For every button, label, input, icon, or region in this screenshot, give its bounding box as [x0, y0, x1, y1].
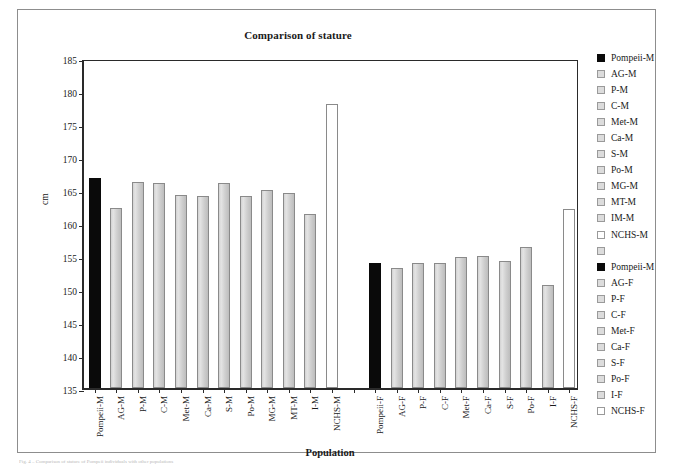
bar-slot: C-F — [429, 61, 451, 388]
bar-ca-f[interactable] — [477, 256, 489, 388]
bar-i-f[interactable] — [542, 285, 554, 388]
legend-item-label: AG-F — [611, 278, 633, 288]
legend-swatch-icon — [597, 198, 605, 206]
legend-item-label: Met-F — [611, 326, 635, 336]
bar-p-f[interactable] — [412, 263, 424, 388]
legend-swatch-icon — [597, 118, 605, 126]
x-axis-tick-label: C-M — [159, 396, 169, 413]
legend-swatch-icon — [597, 263, 605, 271]
bar-met-f[interactable] — [455, 257, 467, 388]
legend-item[interactable]: Pompeii-M — [597, 50, 674, 66]
bar-ag-f[interactable] — [391, 268, 403, 388]
legend-item[interactable] — [597, 243, 674, 259]
bar-pompeii-f[interactable] — [369, 263, 381, 388]
bar-slot: Ca-M — [192, 61, 214, 388]
chart-title: Comparison of stature — [18, 29, 578, 41]
legend-item[interactable]: MT-M — [597, 194, 674, 210]
bar-met-m[interactable] — [175, 195, 187, 388]
legend-item[interactable]: AG-F — [597, 275, 674, 291]
legend-item[interactable]: P-F — [597, 291, 674, 307]
legend-item[interactable]: AG-M — [597, 66, 674, 82]
x-axis-tick-label: P-F — [418, 396, 428, 409]
legend-item-label: Ca-M — [611, 133, 633, 143]
legend-swatch-icon — [597, 279, 605, 287]
legend-item[interactable]: Ca-M — [597, 130, 674, 146]
bar-p-m[interactable] — [132, 182, 144, 388]
legend-item[interactable]: S-F — [597, 355, 674, 371]
x-axis-tick-label: C-F — [440, 396, 450, 410]
x-axis-tick-mark — [246, 388, 247, 393]
bar-ag-m[interactable] — [110, 208, 122, 388]
bar-slot: I-F — [537, 61, 559, 388]
x-axis-tick-mark — [526, 388, 527, 393]
legend-item[interactable]: S-M — [597, 146, 674, 162]
bar-c-m[interactable] — [153, 183, 165, 388]
legend-item-label: Ca-F — [611, 342, 630, 352]
legend-item[interactable]: P-M — [597, 82, 674, 98]
bar-pompeii-m[interactable] — [89, 178, 101, 388]
x-axis-tick-label: S-M — [224, 396, 234, 412]
bar-mg-m[interactable] — [261, 190, 273, 388]
bar-ca-m[interactable] — [197, 196, 209, 388]
legend-item[interactable]: IM-M — [597, 210, 674, 226]
x-axis-tick-mark — [548, 388, 549, 393]
legend-item-label: Pompeii-M — [611, 262, 654, 272]
x-axis-tick-mark — [95, 388, 96, 393]
legend-item[interactable]: NCHS-M — [597, 227, 674, 243]
legend-swatch-icon — [597, 182, 605, 190]
legend-item[interactable]: Met-M — [597, 114, 674, 130]
legend-item[interactable]: Ca-F — [597, 339, 674, 355]
bar-po-f[interactable] — [520, 247, 532, 388]
x-axis-tick-mark — [310, 388, 311, 393]
legend-swatch-icon — [597, 391, 605, 399]
legend-item-label: AG-M — [611, 69, 636, 79]
bar-slot: NCHS-M — [321, 61, 343, 388]
legend-item[interactable]: Met-F — [597, 323, 674, 339]
bar-slot: P-F — [407, 61, 429, 388]
x-axis-tick-label: NCHS-F — [569, 396, 579, 428]
legend-item[interactable]: MG-M — [597, 178, 674, 194]
x-axis-tick-mark — [440, 388, 441, 393]
bar-i-m[interactable] — [304, 214, 316, 388]
legend-swatch-icon — [597, 231, 605, 239]
x-axis-tick-label: P-M — [138, 396, 148, 412]
x-axis-tick-mark — [203, 388, 204, 393]
x-axis-tick-label: Ca-M — [203, 396, 213, 417]
bar-c-f[interactable] — [434, 263, 446, 388]
legend-swatch-icon — [597, 311, 605, 319]
bar-slot: MG-M — [257, 61, 279, 388]
bar-s-f[interactable] — [499, 261, 511, 388]
legend-swatch-icon — [597, 327, 605, 335]
legend-swatch-icon — [597, 247, 605, 255]
bar-slot: Pompeii-F — [364, 61, 386, 388]
x-axis-tick-label: MG-M — [267, 396, 277, 422]
bar-nchs-m[interactable] — [326, 104, 338, 388]
bar-s-m[interactable] — [218, 183, 230, 388]
legend-item[interactable]: Po-M — [597, 162, 674, 178]
legend-item[interactable]: C-F — [597, 307, 674, 323]
legend-item[interactable]: Pompeii-M — [597, 259, 674, 275]
legend-item[interactable]: I-F — [597, 387, 674, 403]
bar-nchs-f[interactable] — [563, 209, 575, 388]
bar-slot: MT-M — [278, 61, 300, 388]
bar-po-m[interactable] — [240, 196, 252, 388]
legend-item-label: MG-M — [611, 181, 638, 191]
x-axis-tick-label: MT-M — [289, 396, 299, 420]
legend-item[interactable]: C-M — [597, 98, 674, 114]
legend-swatch-icon — [597, 70, 605, 78]
legend-item-label: MT-M — [611, 197, 636, 207]
x-axis-tick-mark — [483, 388, 484, 393]
bar-slot: Po-M — [235, 61, 257, 388]
legend-swatch-icon — [597, 54, 605, 62]
legend-swatch-icon — [597, 150, 605, 158]
x-axis-tick-label: Pompeii-M — [95, 396, 105, 437]
legend-item-label: Pompeii-M — [611, 53, 654, 63]
legend-item[interactable]: Po-F — [597, 371, 674, 387]
legend-item-label: C-M — [611, 101, 629, 111]
legend-item-label: P-M — [611, 85, 628, 95]
legend-item[interactable]: NCHS-F — [597, 403, 674, 419]
x-axis-tick-mark — [224, 388, 225, 393]
legend-swatch-icon — [597, 407, 605, 415]
bar-slot: P-M — [127, 61, 149, 388]
bar-mt-m[interactable] — [283, 193, 295, 388]
